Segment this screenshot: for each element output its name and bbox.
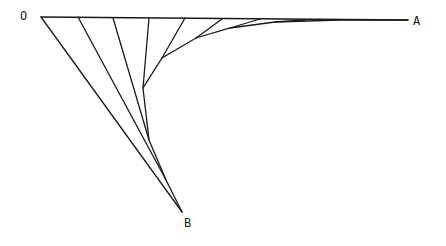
- pursuit-curve: [143, 20, 408, 212]
- segment-5: [196, 19, 222, 38]
- label-o: O: [20, 9, 27, 23]
- label-b: B: [184, 216, 191, 230]
- segment-3: [143, 18, 149, 88]
- line-OB: [41, 17, 182, 212]
- construction-lines: [0, 0, 446, 246]
- segment-1: [78, 17, 166, 180]
- segment-4: [162, 18, 185, 58]
- label-a: A: [413, 14, 420, 28]
